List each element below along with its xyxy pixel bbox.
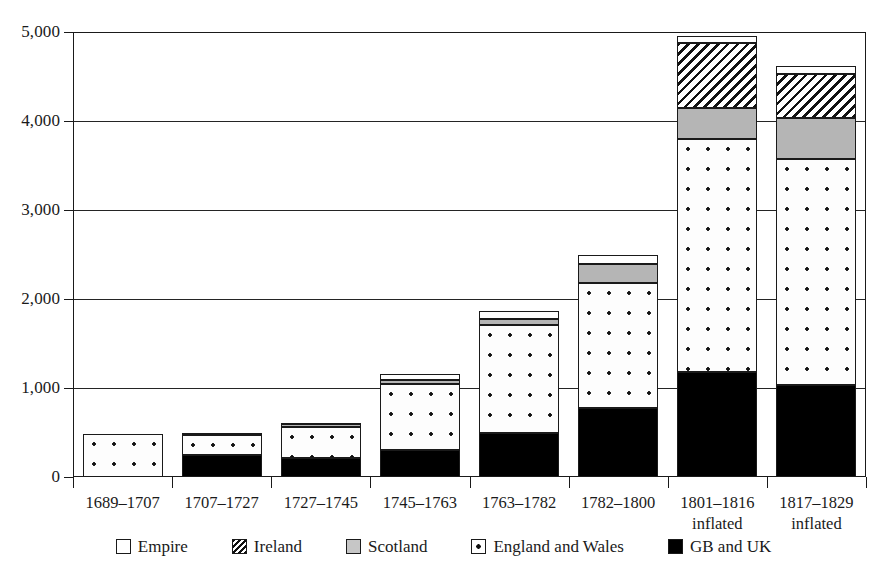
bar-segment-empire [281,423,361,425]
bar-1727-1745 [281,32,361,477]
legend-item-gb-and-uk[interactable]: GB and UK [668,538,771,555]
chart-legend: EmpireIrelandScotlandEngland and WalesGB… [0,538,887,555]
legend-label: GB and UK [690,538,771,555]
x-tick-label-period: 1817–1829 [779,493,853,512]
bar-segment-scotland [776,118,856,159]
bar-segment-empire [776,66,856,74]
bar-segment-empire [479,311,559,320]
bar-segment-england-and-wales [182,435,262,455]
y-tick-mark-1000 [64,388,73,389]
bar-segment-england-and-wales [677,139,757,372]
bar-segment-ireland [776,74,856,119]
x-tick-label-1: 1707–1727 [172,492,271,513]
bar-1745-1763 [380,32,460,477]
x-tick-label-note: inflated [668,513,767,534]
y-tick-mark-0 [64,477,73,478]
x-tick-mark-3 [370,477,371,488]
legend-swatch-england-and-wales [471,539,486,554]
bar-segment-gb-and-uk [479,433,559,477]
y-tick-mark-2000 [64,299,73,300]
x-tick-mark-4 [470,477,471,488]
bar-1817-1829 [776,32,856,477]
x-tick-mark-6 [668,477,669,488]
plot-area [73,32,866,477]
bar-1689-1707 [83,32,163,477]
legend-swatch-gb-and-uk [668,539,683,554]
bar-1782-1800 [578,32,658,477]
x-tick-label-4: 1763–1782 [470,492,569,513]
bar-segment-gb-and-uk [578,408,658,477]
x-tick-label-period: 1801–1816 [680,493,754,512]
x-tick-mark-2 [271,477,272,488]
bar-segment-gb-and-uk [380,450,460,477]
bar-segment-england-and-wales [281,427,361,458]
y-tick-label-2000: 2,000 [0,290,60,307]
x-tick-label-note: inflated [767,513,866,534]
bar-segment-scotland [281,424,361,426]
x-tick-mark-end [866,477,867,488]
bar-segment-empire [578,255,658,265]
bar-segment-england-and-wales [479,325,559,434]
x-tick-label-5: 1782–1800 [569,492,668,513]
y-tick-mark-3000 [64,210,73,211]
x-tick-mark-5 [569,477,570,488]
y-tick-label-5000: 5,000 [0,23,60,40]
bar-segment-gb-and-uk [281,458,361,477]
bar-segment-gb-and-uk [677,372,757,477]
bar-segment-gb-and-uk [182,455,262,477]
legend-item-empire[interactable]: Empire [116,538,188,555]
bar-segment-empire [677,36,757,43]
x-tick-label-6: 1801–1816inflated [668,492,767,534]
bar-segment-england-and-wales [83,434,163,477]
x-tick-label-3: 1745–1763 [370,492,469,513]
legend-label: Ireland [254,538,302,555]
x-tick-mark-0 [73,477,74,488]
x-tick-label-0: 1689–1707 [73,492,172,513]
y-tick-mark-5000 [64,32,73,33]
x-tick-label-7: 1817–1829inflated [767,492,866,534]
legend-item-england-and-wales[interactable]: England and Wales [471,538,624,555]
bar-segment-ireland [677,43,757,108]
legend-swatch-empire [116,539,131,554]
x-tick-label-period: 1689–1707 [85,493,159,512]
stacked-bar-chart: 01,0002,0003,0004,0005,000 1689–17071707… [0,0,887,581]
legend-swatch-scotland [346,539,361,554]
bar-segment-england-and-wales [578,283,658,408]
legend-label: England and Wales [493,538,624,555]
legend-swatch-ireland [232,539,247,554]
bar-segment-scotland [677,108,757,139]
x-tick-label-period: 1763–1782 [482,493,556,512]
x-tick-mark-7 [767,477,768,488]
bar-segment-scotland [182,433,262,435]
bar-segment-gb-and-uk [776,385,856,477]
bar-segment-scotland [578,264,658,283]
x-tick-label-period: 1782–1800 [581,493,655,512]
y-tick-label-0: 0 [0,468,60,485]
bar-segment-scotland [479,319,559,324]
x-tick-mark-1 [172,477,173,488]
legend-item-ireland[interactable]: Ireland [232,538,302,555]
y-tick-label-4000: 4,000 [0,112,60,129]
bar-segment-england-and-wales [380,384,460,451]
y-tick-label-1000: 1,000 [0,379,60,396]
x-tick-label-period: 1707–1727 [185,493,259,512]
bar-1707-1727 [182,32,262,477]
y-tick-mark-4000 [64,121,73,122]
x-tick-label-period: 1745–1763 [383,493,457,512]
bar-1763-1782 [479,32,559,477]
legend-label: Empire [138,538,188,555]
bar-segment-empire [380,374,460,380]
bar-1801-1816 [677,32,757,477]
x-tick-label-2: 1727–1745 [271,492,370,513]
bar-segment-england-and-wales [776,159,856,385]
legend-label: Scotland [368,538,428,555]
legend-item-scotland[interactable]: Scotland [346,538,428,555]
y-tick-label-3000: 3,000 [0,201,60,218]
x-tick-label-period: 1727–1745 [284,493,358,512]
bar-segment-scotland [380,380,460,384]
